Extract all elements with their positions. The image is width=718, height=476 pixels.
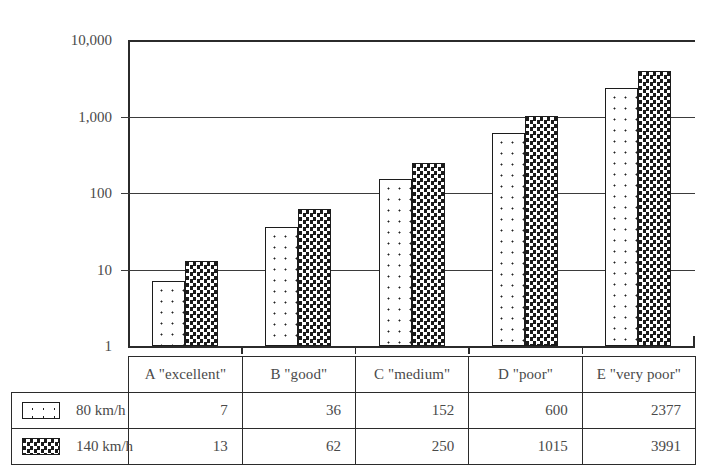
y-tick-label: 1 <box>105 338 113 355</box>
y-tick-label: 10,000 <box>71 32 112 49</box>
y-tick-mark <box>121 117 128 118</box>
bar-series1 <box>265 227 298 346</box>
table-header-row: A "excellent"B "good"C "medium"D "poor"E… <box>12 357 696 393</box>
table-header-category: E "very poor" <box>582 357 695 393</box>
bar-series2 <box>638 71 671 346</box>
legend-cell: 140 km/h <box>12 429 129 465</box>
data-table: A "excellent"B "good"C "medium"D "poor"E… <box>11 356 696 465</box>
x-axis-tick <box>468 346 470 354</box>
legend-cell: 80 km/h <box>12 393 129 429</box>
table-corner-cell <box>12 357 129 393</box>
table-header-category: C "medium" <box>355 357 468 393</box>
y-tick-label: 1,000 <box>78 108 112 125</box>
bar-series1 <box>152 281 185 346</box>
chart-figure: Shock absorber power / vehicle [W] 10,00… <box>0 0 718 476</box>
plot-area <box>128 40 695 348</box>
table-cell-value: 152 <box>355 393 468 429</box>
bar-series1 <box>379 179 412 346</box>
bar-series2 <box>185 261 218 346</box>
x-axis-tick <box>355 346 357 354</box>
table-cell-value: 7 <box>129 393 242 429</box>
legend-label: 80 km/h <box>76 402 126 419</box>
table-cell-value: 1015 <box>469 429 582 465</box>
table-cell-value: 36 <box>242 393 355 429</box>
legend-swatch-series1 <box>22 402 60 419</box>
x-axis-tick <box>241 346 243 354</box>
y-tick-mark <box>121 193 128 194</box>
table-cell-value: 600 <box>469 393 582 429</box>
table-header-category: A "excellent" <box>129 357 242 393</box>
table-row: 80 km/h7361526002377 <box>12 393 696 429</box>
y-tick-mark <box>121 270 128 271</box>
y-tick-label: 100 <box>90 185 113 202</box>
table-cell-value: 3991 <box>582 429 695 465</box>
bar-series1 <box>605 88 638 346</box>
bar-series1 <box>492 133 525 346</box>
x-axis-line <box>128 346 695 348</box>
table-cell-value: 62 <box>242 429 355 465</box>
x-axis-end-cap <box>693 336 695 348</box>
y-tick-label: 10 <box>97 261 112 278</box>
table-cell-value: 250 <box>355 429 468 465</box>
bar-series2 <box>412 163 445 346</box>
data-table-wrapper: A "excellent"B "good"C "medium"D "poor"E… <box>11 356 696 466</box>
bar-series2 <box>525 116 558 346</box>
x-axis-tick <box>582 346 584 354</box>
table-body: 80 km/h7361526002377140 km/h136225010153… <box>12 393 696 465</box>
table-header-category: D "poor" <box>469 357 582 393</box>
table-cell-value: 2377 <box>582 393 695 429</box>
legend-label: 140 km/h <box>76 438 133 455</box>
table-row: 140 km/h136225010153991 <box>12 429 696 465</box>
table-cell-value: 13 <box>129 429 242 465</box>
plot-border-left <box>128 40 130 348</box>
bar-series2 <box>298 209 331 346</box>
legend-swatch-series2 <box>22 438 60 455</box>
plot-border-top <box>128 40 695 42</box>
table-header-category: B "good" <box>242 357 355 393</box>
